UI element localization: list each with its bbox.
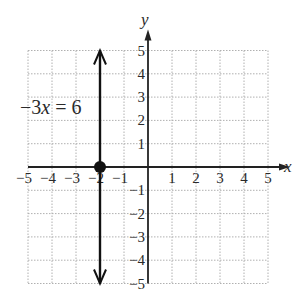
equation-variable: x	[40, 96, 50, 118]
x-axis-label: x	[283, 157, 292, 176]
y-tick-label: 3	[138, 89, 146, 105]
intercept-point	[94, 161, 106, 173]
x-tick-label: −4	[40, 170, 56, 186]
x-tick-label: −1	[112, 170, 128, 186]
x-tick-label: 4	[240, 170, 248, 186]
axes	[28, 30, 290, 284]
equation-coefficient: −3	[20, 96, 41, 118]
x-tick-label: 3	[216, 170, 224, 186]
graph-line	[94, 51, 106, 284]
y-tick-label: 1	[138, 136, 146, 152]
x-tick-label: −5	[16, 170, 32, 186]
x-tick-label: −3	[64, 170, 80, 186]
y-tick-label: −4	[129, 252, 145, 268]
y-tick-label: −2	[129, 206, 145, 222]
y-tick-label: 5	[138, 43, 146, 59]
y-axis-label: y	[139, 10, 149, 29]
coordinate-plane: −5−4−3−2−11234554321−1−2−3−4−5 x y −3x =…	[0, 0, 305, 296]
y-tick-label: 2	[138, 112, 146, 128]
y-tick-label: −1	[129, 182, 145, 198]
y-tick-label: 4	[138, 66, 146, 82]
x-tick-label: 1	[168, 170, 176, 186]
y-tick-label: −5	[129, 276, 145, 292]
x-tick-label: 5	[264, 170, 272, 186]
y-tick-label: −3	[129, 229, 145, 245]
y-axis-arrow-icon	[145, 30, 152, 41]
equation-rhs: = 6	[50, 96, 81, 118]
equation-label: −3x = 6	[20, 96, 81, 118]
x-tick-label: 2	[192, 170, 200, 186]
